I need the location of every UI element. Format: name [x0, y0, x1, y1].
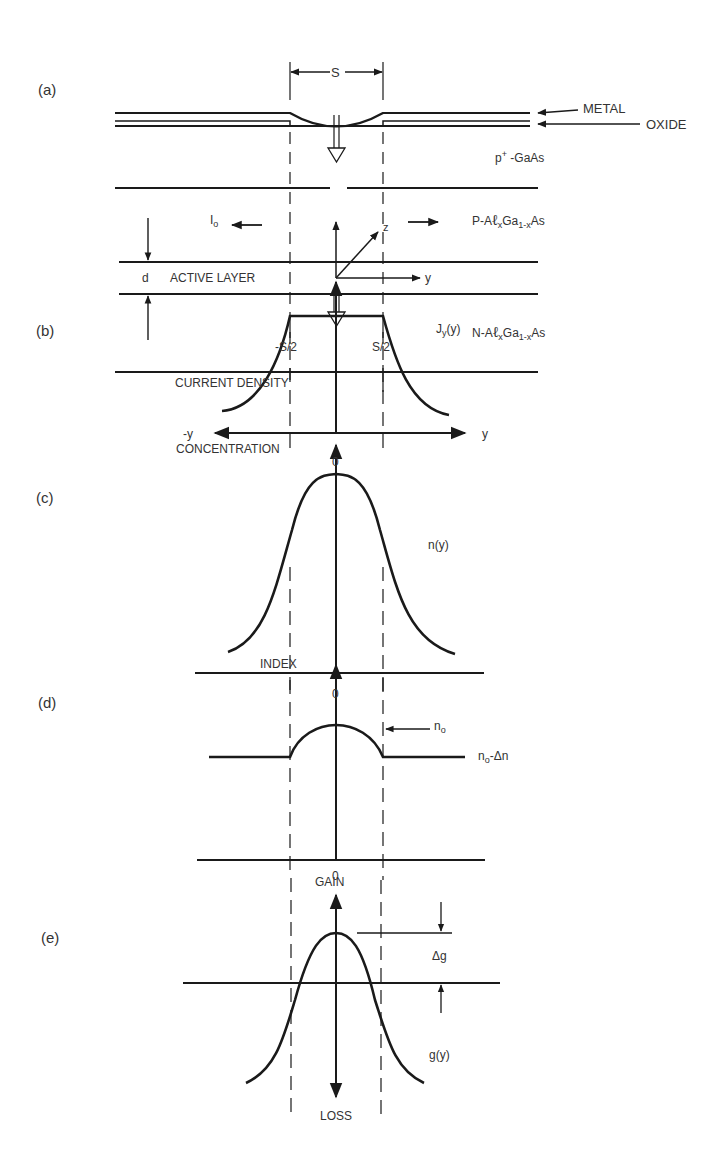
delta-g-label: Δg	[432, 950, 447, 962]
right-edge-label: S/2	[372, 341, 390, 353]
b-origin-label: 0	[332, 456, 339, 468]
z-axis-label: z	[383, 222, 389, 233]
thickness-label: d	[142, 272, 149, 284]
figure-canvas	[0, 0, 724, 1151]
panel-tag-a: (a)	[38, 82, 56, 97]
c-concentration-curve	[228, 474, 455, 654]
ny-curve-label: n(y)	[428, 539, 449, 551]
metal-label: METAL	[583, 102, 625, 115]
metal-pointer-arrow	[538, 110, 578, 113]
n-algaas-label: N-AℓxGa1-xAs	[472, 325, 545, 342]
pos-y-label: y	[482, 428, 488, 440]
panel-d-index	[197, 665, 485, 880]
panel-tag-b: (b)	[36, 323, 54, 338]
metal-layer	[115, 113, 530, 127]
n0-label: no	[434, 720, 446, 735]
n0-minus-delta-n-label: no-Δn	[478, 750, 508, 765]
current-density-axis-label: CURRENT DENSITY	[175, 377, 289, 389]
lateral-current-label: Io	[210, 214, 218, 229]
concentration-axis-label: CONCENTRATION	[176, 443, 280, 455]
y-axis-label: y	[425, 272, 431, 284]
jy-curve-label: Jy(y)	[436, 323, 461, 338]
index-axis-label: INDEX	[260, 658, 297, 670]
active-layer-label: ACTIVE LAYER	[170, 272, 255, 284]
stripe-width-label: S	[331, 66, 340, 79]
gy-curve-label: g(y)	[429, 1049, 450, 1061]
gain-axis-label: GAIN	[315, 876, 344, 888]
p-plus-gaas-label: p+ -GaAs	[495, 150, 544, 164]
panel-tag-c: (c)	[36, 490, 54, 505]
loss-axis-label: LOSS	[320, 1110, 352, 1122]
panel-e-gain	[183, 878, 500, 1117]
z-axis-arrow	[336, 232, 378, 278]
panel-c-concentration	[195, 445, 484, 692]
p-algaas-label: P-AℓxGa1-xAs	[472, 213, 545, 230]
panel-b-current-density	[215, 282, 465, 452]
c-origin-label: 0	[332, 688, 339, 700]
oxide-label: OXIDE	[646, 118, 686, 131]
left-edge-label: -S/2	[275, 341, 297, 353]
neg-y-label: -y	[183, 428, 193, 440]
panel-tag-d: (d)	[38, 695, 56, 710]
current-inflow-arrow	[328, 148, 345, 162]
panel-tag-e: (e)	[41, 930, 59, 945]
